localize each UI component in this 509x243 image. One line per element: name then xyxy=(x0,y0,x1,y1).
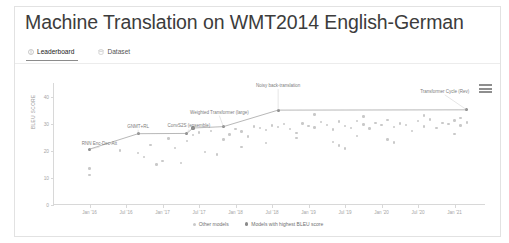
x-tick-mark xyxy=(199,205,200,208)
y-tick-mark xyxy=(51,205,54,206)
x-tick-label: Jul '19 xyxy=(338,210,351,215)
page-title: Machine Translation on WMT2014 English-G… xyxy=(25,11,464,34)
tab-leaderboard[interactable]: Leaderboard xyxy=(26,46,78,61)
plot-region: BLEU SCORE 010203040 Jan '16Jul '16Jan '… xyxy=(53,83,485,205)
y-axis-label: BLEU SCORE xyxy=(31,94,36,129)
chart-legend: Other models Models with highest BLEU sc… xyxy=(23,221,493,227)
y-tick-label: 20 xyxy=(44,148,49,153)
tab-bar: Leaderboard Dataset xyxy=(26,46,134,61)
x-tick-label: Jan '17 xyxy=(155,210,170,215)
x-tick-mark xyxy=(455,205,456,208)
x-tick-mark xyxy=(236,205,237,208)
tab-dataset-label: Dataset xyxy=(107,48,130,55)
x-tick-label: Jan '18 xyxy=(228,210,243,215)
tab-divider xyxy=(15,63,500,64)
x-tick-mark xyxy=(90,205,91,208)
annotation-label: RNN Enc-Dec-Att xyxy=(82,141,117,146)
x-tick-label: Jul '18 xyxy=(265,210,278,215)
legend-label-sota: Models with highest BLEU score xyxy=(251,221,323,227)
legend-dot-other xyxy=(193,223,196,226)
annotation-label: Weighted Transformer (large) xyxy=(190,110,249,115)
y-tick-label: 30 xyxy=(44,121,49,126)
x-tick-mark xyxy=(418,205,419,208)
y-tick-label: 10 xyxy=(44,175,49,180)
tab-leaderboard-label: Leaderboard xyxy=(37,48,74,55)
x-tick-label: Jan '21 xyxy=(447,210,462,215)
x-tick-label: Jul '17 xyxy=(192,210,205,215)
x-tick-mark xyxy=(163,205,164,208)
tab-dataset[interactable]: Dataset xyxy=(96,46,134,61)
legend-item-highest-bleu[interactable]: Models with highest BLEU score xyxy=(245,221,324,227)
x-tick-label: Jan '20 xyxy=(374,210,389,215)
x-tick-mark xyxy=(272,205,273,208)
trophy-icon xyxy=(28,49,34,55)
annotation-label: GNMT+RL xyxy=(127,124,149,129)
legend-item-other-models[interactable]: Other models xyxy=(193,221,229,227)
annotation-label: Noisy back-translation xyxy=(256,83,300,88)
x-tick-mark xyxy=(126,205,127,208)
x-tick-label: Jul '20 xyxy=(411,210,424,215)
annotation-label: Transformer Cycle (Rev) xyxy=(420,89,469,94)
bleu-score-chart: BLEU SCORE 010203040 Jan '16Jul '16Jan '… xyxy=(23,69,493,231)
x-tick-label: Jan '16 xyxy=(82,210,97,215)
x-tick-mark xyxy=(309,205,310,208)
leaderboard-card: Machine Translation on WMT2014 English-G… xyxy=(14,6,501,237)
y-tick-label: 40 xyxy=(44,94,49,99)
legend-dot-sota xyxy=(245,222,249,226)
annotation-label: ConvS2S (ensemble) xyxy=(167,123,210,128)
page-root: Machine Translation on WMT2014 English-G… xyxy=(0,0,509,243)
legend-label-other: Other models xyxy=(199,221,229,227)
sota-trend-line xyxy=(53,83,485,205)
x-tick-label: Jul '16 xyxy=(119,210,132,215)
x-tick-mark xyxy=(382,205,383,208)
x-tick-label: Jan '19 xyxy=(301,210,316,215)
database-icon xyxy=(98,49,104,55)
x-tick-mark xyxy=(345,205,346,208)
y-tick-label: 0 xyxy=(46,203,49,208)
